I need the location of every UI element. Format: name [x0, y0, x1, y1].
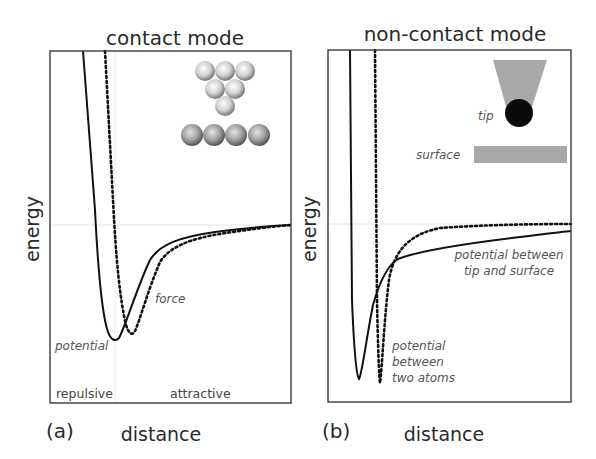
two-atoms-label-3: two atoms: [392, 371, 455, 385]
potential-label: potential: [54, 339, 109, 353]
surface-label: surface: [416, 148, 460, 162]
two-atoms-label-2: between: [392, 355, 444, 369]
panel-a-xlabel: distance: [121, 423, 202, 445]
attractive-label: attractive: [170, 386, 231, 401]
panel-b-ylabel: energy: [298, 196, 320, 262]
surface-atoms-icon: [181, 124, 270, 146]
afm-energy-figure: contact mode force potential repulsiv: [0, 0, 596, 459]
panel-b-two-atoms-curve: [375, 50, 571, 383]
tip-surface-label-1: potential between: [453, 248, 563, 262]
panel-a-ylabel: energy: [21, 196, 43, 262]
panel-b-xlabel: distance: [404, 423, 485, 445]
tip-surface-label-2: tip and surface: [464, 264, 554, 278]
surface-block-icon: [474, 146, 567, 163]
panel-a: contact mode force potential repulsiv: [21, 26, 291, 445]
panel-b: non-contact mode tip surface potential b…: [298, 22, 571, 445]
force-label: force: [155, 292, 185, 306]
panel-a-force-curve: [105, 51, 291, 334]
panel-b-label: (b): [322, 419, 350, 443]
tip-atoms-icon: [195, 61, 255, 116]
repulsive-label: repulsive: [56, 386, 113, 401]
panel-a-potential-curve: [83, 51, 291, 340]
panel-a-label: (a): [46, 419, 74, 443]
two-atoms-label-1: potential: [391, 339, 446, 353]
panel-a-title: contact mode: [106, 26, 244, 50]
tip-apex-icon: [505, 99, 533, 127]
panel-b-title: non-contact mode: [364, 22, 547, 46]
tip-label: tip: [478, 109, 494, 123]
